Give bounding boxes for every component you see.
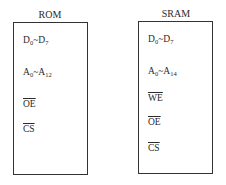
rom-pin-address-bus: A0~A12	[23, 67, 52, 77]
sram-pin-output-enable: OE	[148, 117, 161, 127]
rom-title: ROM	[12, 9, 88, 20]
rom-pin-chip-select: CS	[23, 124, 35, 134]
sram-pin-write-enable: WE	[148, 93, 163, 103]
sram-chip-box: D0~D7 A0~A14 WE OE CS	[138, 21, 213, 174]
pin-label: D	[23, 35, 30, 45]
pin-subscript: 14	[170, 70, 177, 77]
pin-subscript: 12	[45, 71, 52, 78]
pin-label: A	[148, 66, 155, 76]
sram-pin-data-bus: D0~D7	[148, 34, 173, 44]
pin-label: D	[148, 34, 155, 44]
rom-pin-data-bus: D0~D7	[23, 35, 48, 45]
sram-pin-address-bus: A0~A14	[148, 66, 177, 76]
pin-subscript: 7	[45, 39, 48, 46]
pin-subscript: 7	[170, 38, 173, 45]
sram-title: SRAM	[138, 8, 214, 19]
rom-pin-output-enable: OE	[23, 99, 36, 109]
rom-chip-box: D0~D7 A0~A12 OE CS	[13, 22, 88, 175]
sram-pin-chip-select: CS	[148, 143, 160, 153]
pin-label: A	[23, 67, 30, 77]
